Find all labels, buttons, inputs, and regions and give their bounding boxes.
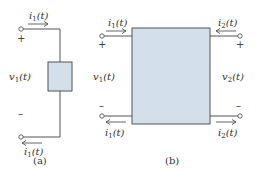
- argument: (t): [113, 127, 125, 138]
- argument: (t): [232, 71, 244, 82]
- label-a-minus: –: [18, 109, 23, 119]
- argument: (t): [116, 17, 128, 28]
- label-b-minus-left: –: [99, 101, 104, 111]
- arrow-left-icon: [22, 141, 42, 146]
- label-b-current-left-bottom: i1(t): [105, 128, 125, 140]
- terminal-b-left-top: [100, 34, 104, 38]
- label-a-current-top: i1(t): [29, 11, 49, 23]
- arrow-left-icon: [106, 120, 126, 125]
- terminal-b-right-bottom: [238, 114, 242, 118]
- argument: (t): [37, 10, 49, 21]
- argument: (t): [226, 127, 238, 138]
- label-a-voltage: v1(t): [9, 72, 31, 84]
- label-b-current-left-top: i1(t): [108, 18, 128, 30]
- figure-b-two-port: [100, 28, 242, 125]
- arrow-right-icon: [216, 120, 236, 125]
- network-box-b: [132, 28, 210, 124]
- label-b-current-right-top: i2(t): [218, 18, 238, 30]
- label-b-voltage-right: v2(t): [222, 72, 244, 84]
- terminal-a-top: [19, 27, 23, 31]
- argument: (t): [103, 71, 115, 82]
- label-b-plus-left: +: [98, 40, 106, 50]
- label-b-current-right-bottom: i2(t): [218, 128, 238, 140]
- label-b-voltage-left: v1(t): [93, 72, 115, 84]
- caption-b: (b): [165, 156, 179, 166]
- terminal-b-right-top: [238, 34, 242, 38]
- element-box-a: [48, 62, 72, 91]
- label-b-plus-right: +: [236, 40, 244, 50]
- terminal-a-bottom: [19, 135, 23, 139]
- label-b-minus-right: –: [236, 101, 241, 111]
- argument: (t): [19, 71, 31, 82]
- terminal-b-left-bottom: [100, 114, 104, 118]
- label-a-plus: +: [17, 34, 25, 44]
- wire-a-top: [23, 29, 60, 62]
- argument: (t): [226, 17, 238, 28]
- wire-a-bottom: [23, 91, 60, 137]
- caption-a: (a): [33, 156, 47, 166]
